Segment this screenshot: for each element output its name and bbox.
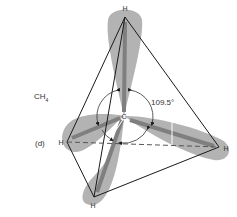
bond-core-top [124, 22, 125, 112]
methane-tetrahedron-diagram: H C H H H 109.5° [0, 0, 237, 217]
atom-label-left-h: H [58, 139, 63, 146]
bond-angle-label: 109.5° [151, 98, 174, 107]
atom-label-right-h: H [223, 145, 228, 152]
atom-label-center-c: C [121, 113, 126, 120]
angle-arc-bottom-right [120, 128, 148, 143]
molecule-formula: CH4 [34, 92, 48, 103]
molecule-formula-subscript: 4 [46, 97, 49, 103]
molecule-formula-main: CH [34, 92, 46, 101]
tetrahedron-edges [67, 17, 219, 197]
orbital-lobes [62, 10, 229, 206]
panel-label: (d) [35, 139, 45, 148]
atom-label-top-h: H [122, 5, 127, 12]
atom-label-bottom-h: H [90, 202, 95, 209]
